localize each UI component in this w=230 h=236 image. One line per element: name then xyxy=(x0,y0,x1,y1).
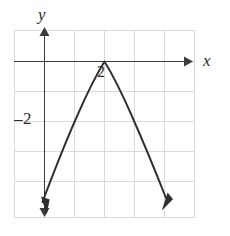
x-axis-arrowhead xyxy=(184,57,193,67)
x-axis-label: x xyxy=(203,52,211,69)
y-axis-arrowhead-down xyxy=(40,208,50,217)
parabola-curve xyxy=(41,62,173,215)
vertex-value-label: 2 xyxy=(97,64,105,80)
y-axis-tick-label-negative-two: –2 xyxy=(14,110,32,127)
y-axis-label: y xyxy=(38,6,46,23)
coordinate-plane-svg xyxy=(0,0,230,236)
graph-figure: y x 2 –2 xyxy=(0,0,230,236)
grid-lines xyxy=(14,30,195,218)
parabola-right-arrowhead xyxy=(162,193,173,211)
y-axis-arrowhead-up xyxy=(40,27,50,36)
